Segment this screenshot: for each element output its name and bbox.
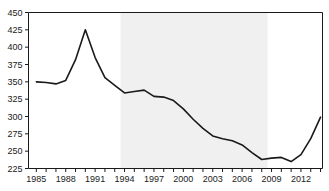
x-axis-tick-label: 2012 [291,174,311,184]
x-axis-tick-label: 1997 [144,174,164,184]
y-axis-tick-label: 325 [7,94,22,104]
y-axis-tick-label: 275 [7,129,22,139]
x-axis-tick-label: 1985 [26,174,46,184]
y-axis-tick-label: 375 [7,60,22,70]
y-axis-tick-label: 250 [7,146,22,156]
y-axis-tick-label: 425 [7,25,22,35]
line-chart: 225250275300325350375400425450 198519881… [0,0,329,191]
y-axis-tick-label: 450 [7,8,22,18]
y-axis-tick-label: 400 [7,42,22,52]
x-axis-tick-label: 2009 [262,174,282,184]
y-axis-tick-label: 225 [7,164,22,174]
y-axis-tick-label: 350 [7,77,22,87]
chart-container: 225250275300325350375400425450 198519881… [0,0,329,191]
x-axis-tick-label: 2003 [203,174,223,184]
x-axis-tick-label: 1988 [56,174,76,184]
y-axis-tick-label: 300 [7,112,22,122]
x-axis-tick-label: 2000 [173,174,193,184]
x-axis-tick-label: 2006 [232,174,252,184]
x-axis-tick-label: 1991 [85,174,105,184]
x-axis-tick-label: 1994 [115,174,135,184]
